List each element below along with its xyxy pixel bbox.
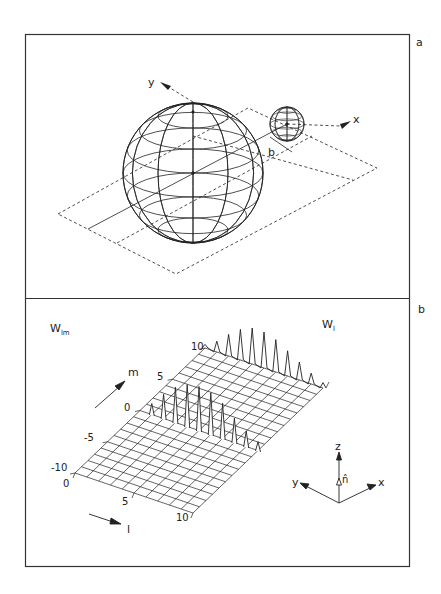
m-axis-label: m: [128, 366, 139, 379]
m-tick-5: 5: [157, 371, 163, 382]
figure: a b y x b Wlm Wl 10 5 0 -5 -10 0 5 10 m …: [0, 0, 441, 594]
dashed-plane: [58, 108, 377, 274]
triad-z-label: z: [335, 440, 341, 453]
panel-a-y-axis-label: y: [148, 76, 155, 89]
m-tick-10: 10: [191, 341, 204, 352]
panel-b-surface: [70, 328, 329, 518]
surface-label: Wlm: [50, 322, 70, 337]
m-tick-0: 0: [124, 402, 130, 413]
triad-y-label: y: [292, 476, 299, 489]
panel-label-a: a: [416, 36, 423, 49]
m-tick-neg10: -10: [51, 462, 67, 473]
panel-a-x-axis-label: x: [353, 113, 360, 126]
l-tick-10: 10: [176, 512, 189, 523]
l-tick-5: 5: [122, 496, 128, 507]
l-axis-label: l: [127, 523, 130, 536]
axis-arrows: [89, 381, 376, 524]
triad-normal-label: n̂: [342, 474, 348, 485]
panel-label-b: b: [418, 303, 425, 316]
panel-a-diagram: [58, 82, 377, 274]
m-tick-neg5: -5: [84, 432, 94, 443]
l-tick-0: 0: [63, 478, 69, 489]
impact-parameter-label: b: [268, 146, 275, 159]
triad-x-label: x: [378, 476, 385, 489]
projection-label: Wl: [322, 318, 335, 333]
